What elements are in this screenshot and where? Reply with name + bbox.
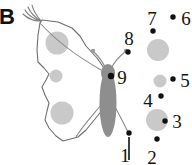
landmark-label-5: 5 <box>180 70 190 91</box>
wing-spot-lower <box>51 102 74 125</box>
landmark-dot-9 <box>108 73 114 79</box>
wing-spot-upper <box>46 32 69 55</box>
landmark-dot-3 <box>162 118 167 123</box>
landmark-dot-2 <box>154 136 159 141</box>
landmark-label-2: 2 <box>147 147 157 165</box>
landmark-dot-4 <box>158 93 163 98</box>
ref-circle-5 <box>154 75 167 88</box>
landmark-dot-6 <box>170 14 175 19</box>
crest-arc-group <box>23 5 41 21</box>
landmark-dot-1 <box>126 130 131 135</box>
landmark-dot-7 <box>150 28 155 33</box>
ref-circle-7 <box>147 39 169 61</box>
landmark-dot-8 <box>125 49 130 54</box>
landmark-label-8: 8 <box>124 28 134 49</box>
landmark-label-3: 3 <box>172 111 182 132</box>
landmark-dot-5 <box>170 76 175 81</box>
landmark-label-6: 6 <box>181 8 191 29</box>
panel-letter: B <box>0 4 15 29</box>
landmark-label-1: 1 <box>120 145 130 165</box>
moth-head <box>101 64 115 82</box>
antenna-left-tip <box>91 49 95 53</box>
landmark-label-7: 7 <box>147 8 157 29</box>
landmark-label-4: 4 <box>143 90 153 111</box>
landmark-diagram-svg: B <box>0 0 192 165</box>
wing-spot-middle <box>50 70 63 83</box>
figure-panel-b: B <box>0 0 192 165</box>
landmark-label-9: 9 <box>117 67 127 88</box>
